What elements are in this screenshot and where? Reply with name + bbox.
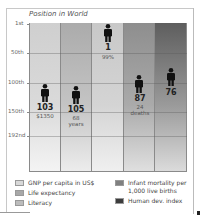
corner-mark [197,211,200,215]
rank-gnp: 103 [29,103,61,112]
y-tick-mark [27,24,30,25]
detail-infant-mortality-unit: deaths [124,110,156,116]
bottom-rule [0,212,30,213]
gridline-100th [29,83,187,84]
chart-title: Position in World [29,10,88,18]
y-tick-mark [27,53,30,54]
detail-gnp: $1350 [29,113,61,119]
y-tick-50th: 50th [11,49,29,55]
rank-life-expectancy: 105 [60,105,92,114]
frame-edge [193,8,194,214]
detail-literacy: 99% [92,54,124,60]
detail-life-expectancy-unit: years [60,121,92,127]
legend-swatch-gnp [15,180,24,186]
rank-infant-mortality: 87 [124,94,156,103]
person-icon [166,68,176,86]
y-tick-192nd: 192nd [8,132,26,138]
legend-label-gnp: GNP per capita in US$ [28,179,94,186]
legend-swatch-infant-mortality [115,180,124,186]
legend-label-human-dev-index: Human dev. index [128,197,182,204]
rank-human-dev-index: 76 [155,88,187,97]
legend-swatch-human-dev-index [115,198,124,204]
rank-literacy: 1 [92,43,124,52]
column-human-dev-index [155,23,187,172]
gridline-192nd [29,136,187,137]
y-tick-100th: 100th [8,79,26,85]
y-tick-mark [27,83,30,84]
legend-swatch-literacy [15,200,24,206]
x-axis-line [29,171,187,172]
person-icon [103,24,113,42]
y-tick-150th: 150th [8,108,26,114]
legend-label-infant-mortality-line2: 1,000 live births [128,187,177,194]
person-icon [71,86,81,104]
legend-swatch-life-expectancy [15,190,24,196]
legend-label-infant-mortality: Infant mortality per [128,179,187,186]
y-tick-mark [27,136,30,137]
person-icon [134,75,144,93]
legend-label-literacy: Literacy [28,199,52,206]
legend-label-life-expectancy: Life expectancy [28,189,75,196]
person-icon [40,84,50,102]
y-tick-1st: 1st [15,20,33,26]
